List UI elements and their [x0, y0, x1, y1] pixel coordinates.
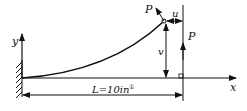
deflected-beam [22, 22, 163, 78]
length-label: L=10in① [92, 84, 134, 95]
length-value: L=10in [92, 84, 129, 95]
tip-force-arrow [156, 8, 164, 21]
u-label: u [172, 9, 178, 19]
v-label: v [158, 47, 164, 57]
vertical-force-label: P [188, 31, 195, 42]
x-axis-label: x [230, 82, 236, 93]
y-axis-label: y [12, 36, 18, 47]
fixed-wall [16, 60, 22, 98]
tip-force-label: P [145, 4, 152, 15]
length-footnote: ① [129, 83, 134, 90]
